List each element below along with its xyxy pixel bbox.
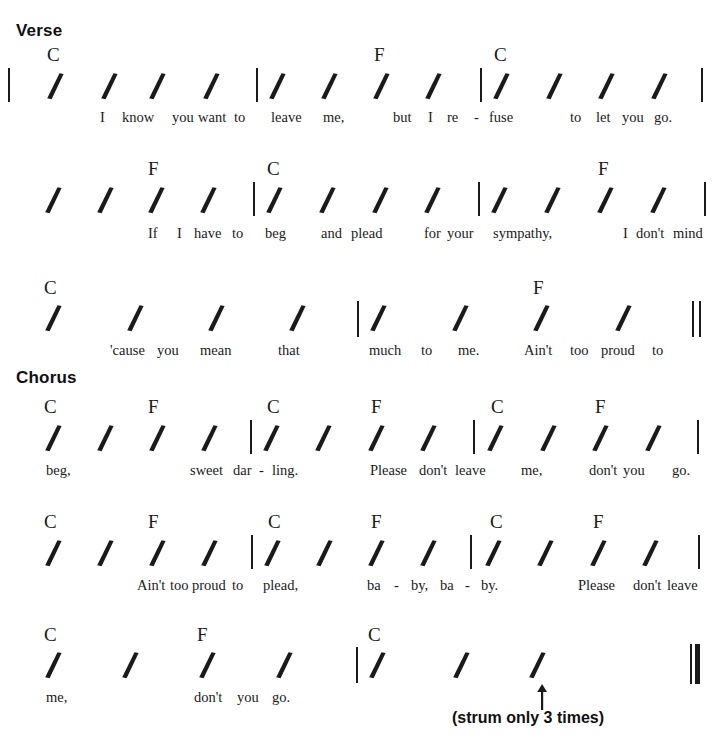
strum-slash-mark <box>641 539 658 565</box>
chord-symbol: C <box>267 397 280 416</box>
section-heading-chorus: Chorus <box>16 369 77 386</box>
lyric-word: plead, <box>263 578 298 593</box>
strum-slash-mark <box>46 72 63 98</box>
lyric-word: - <box>394 578 399 593</box>
section-heading-verse: Verse <box>16 22 62 39</box>
strum-slash-mark <box>452 651 469 677</box>
strum-slash-mark <box>419 424 436 450</box>
chord-symbol: C <box>44 278 57 297</box>
barline-single <box>473 420 475 454</box>
chord-chart-sheet: VerseChorusCFCIknowyouwanttoleaveme,butI… <box>0 0 717 741</box>
lyric-word: beg, <box>46 463 71 478</box>
chord-symbol: C <box>494 45 507 64</box>
chord-symbol: F <box>595 397 606 416</box>
strum-slash-mark <box>126 304 143 330</box>
strum-slash-mark <box>275 651 292 677</box>
strum-slash-mark <box>268 72 285 98</box>
strum-slash-mark <box>649 186 666 212</box>
lyric-word: for <box>424 226 441 241</box>
strum-slash-mark <box>263 539 280 565</box>
strum-slash-mark <box>96 424 113 450</box>
lyric-word: Ain't <box>524 343 552 358</box>
lyric-word: me, <box>46 690 67 705</box>
chord-symbol: F <box>148 397 159 416</box>
lyric-word: Please <box>578 578 615 593</box>
strum-slash-mark <box>96 539 113 565</box>
chord-symbol: F <box>371 512 382 531</box>
strum-slash-mark <box>96 186 113 212</box>
strum-slash-mark <box>591 424 608 450</box>
lyric-word: ba <box>440 578 454 593</box>
strum-slash-mark <box>320 72 337 98</box>
lyric-word: mean <box>200 343 231 358</box>
strum-slash-mark <box>424 72 441 98</box>
strum-slash-mark <box>372 72 389 98</box>
barline-single <box>470 535 472 569</box>
lyric-word: to <box>234 110 245 125</box>
chord-symbol: C <box>44 397 57 416</box>
lyric-word: - <box>465 578 470 593</box>
strum-slash-mark <box>369 304 386 330</box>
chord-symbol: F <box>148 159 159 178</box>
barline-single <box>701 68 703 102</box>
strum-annotation-text: (strum only 3 times) <box>452 710 604 726</box>
lyric-word: me, <box>521 463 542 478</box>
lyric-word: go. <box>272 690 290 705</box>
staff-row-row-1: CFCIknowyouwanttoleaveme,butIre-fusetole… <box>0 0 717 741</box>
lyric-word: to <box>652 343 663 358</box>
strum-slash-mark <box>147 186 164 212</box>
lyric-word: too <box>570 343 589 358</box>
strum-slash-mark <box>44 186 61 212</box>
chord-symbol: F <box>374 45 385 64</box>
lyric-word: re <box>447 110 458 125</box>
barline-single <box>698 535 700 569</box>
lyric-word: you <box>157 343 179 358</box>
lyric-word: I <box>428 110 433 125</box>
lyric-word: - <box>474 110 479 125</box>
strum-slash-mark <box>288 304 305 330</box>
lyric-word: 'cause <box>110 343 145 358</box>
lyric-word: sympathy, <box>493 226 552 241</box>
chord-symbol: C <box>490 512 503 531</box>
lyric-word: me. <box>458 343 479 358</box>
strum-slash-mark <box>492 72 509 98</box>
chord-symbol: C <box>44 625 57 644</box>
strum-slash-mark <box>536 539 553 565</box>
chord-symbol: F <box>371 397 382 416</box>
lyric-word: you <box>622 110 644 125</box>
strum-slash-mark <box>367 539 384 565</box>
staff-row-row-3: CF'causeyoumeanthatmuchtome.Ain'ttooprou… <box>0 0 717 741</box>
strum-slash-mark <box>528 651 545 677</box>
lyric-word: I <box>100 110 105 125</box>
barline-double <box>692 301 694 337</box>
lyric-word: dar <box>233 463 252 478</box>
lyric-word: by. <box>481 578 498 593</box>
strum-slash-mark <box>44 651 61 677</box>
lyric-word: I <box>177 226 182 241</box>
strum-slash-mark <box>314 424 331 450</box>
lyric-word: have <box>194 226 221 241</box>
barline-single <box>480 68 482 102</box>
lyric-word: - <box>259 463 264 478</box>
lyric-word: go. <box>672 463 690 478</box>
strum-slash-mark <box>198 651 215 677</box>
chord-symbol: C <box>491 397 504 416</box>
strum-slash-mark <box>545 72 562 98</box>
lyric-word: leave <box>455 463 486 478</box>
strum-slash-mark <box>539 424 556 450</box>
lyric-word: to <box>232 226 243 241</box>
strum-slash-mark <box>484 539 501 565</box>
strum-slash-mark <box>367 424 384 450</box>
barline-double <box>699 301 701 337</box>
strum-slash-mark <box>121 651 138 677</box>
lyric-word: don't <box>194 690 222 705</box>
lyric-word: leave <box>271 110 302 125</box>
strum-slash-mark <box>148 539 165 565</box>
lyric-word: to <box>570 110 581 125</box>
lyric-word: too <box>170 578 189 593</box>
lyric-word: much <box>369 343 401 358</box>
barline-single <box>697 420 699 454</box>
lyric-word: don't <box>589 463 617 478</box>
staff-row-row-4: CFCFCFbeg,sweetdar-ling.Pleasedon'tleave… <box>0 0 717 741</box>
chord-symbol: C <box>268 512 281 531</box>
